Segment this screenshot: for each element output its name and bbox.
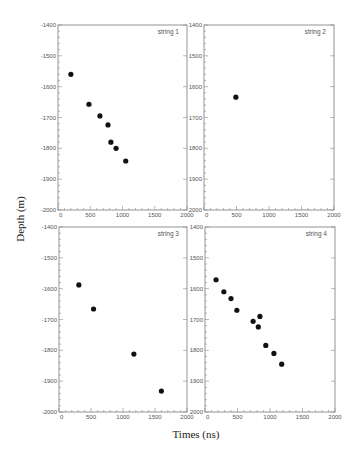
y-tick-label: -1700 <box>41 115 57 121</box>
y-tick-label: 1600 <box>189 84 203 90</box>
y-tick-label: -1800 <box>42 347 58 353</box>
y-tick-label: 2000 <box>189 207 203 213</box>
panel-3: -1400-1500-1600-1700-1800-1900-200005001… <box>42 224 195 420</box>
x-tick-label: 0 <box>206 414 210 420</box>
y-tick-label: 1400 <box>189 22 203 28</box>
y-tick-label: 1800 <box>189 145 203 151</box>
panel-title: string 2 <box>305 28 327 36</box>
data-point <box>97 113 102 118</box>
panel-2: 1400150016001700180019002000050010001500… <box>189 22 342 218</box>
data-point <box>228 296 233 301</box>
y-tick-label: -1400 <box>42 224 58 230</box>
y-tick-label: -1600 <box>41 84 57 90</box>
x-tick-label: 0 <box>60 414 64 420</box>
data-point <box>263 343 268 348</box>
data-point <box>123 158 128 163</box>
x-tick-label: 500 <box>85 212 96 218</box>
x-tick-label: 500 <box>86 414 97 420</box>
x-tick-label: 2000 <box>327 212 341 218</box>
data-point <box>257 314 262 319</box>
y-tick-label: -1800 <box>41 145 57 151</box>
data-point <box>131 351 136 356</box>
figure: -1400-1500-1600-1700-1800-1900-200005001… <box>0 0 361 458</box>
x-tick-label: 1500 <box>148 414 162 420</box>
data-point <box>271 351 276 356</box>
x-tick-label: 1500 <box>148 212 162 218</box>
x-tick-label: 500 <box>231 212 242 218</box>
data-point <box>159 388 164 393</box>
y-tick-label: -1500 <box>42 255 58 261</box>
data-point <box>91 306 96 311</box>
data-point <box>234 308 239 313</box>
y-tick-label: -1400 <box>41 22 57 28</box>
y-tick-label: -1900 <box>41 176 57 182</box>
data-point <box>105 122 110 127</box>
x-tick-label: 1500 <box>295 212 309 218</box>
data-point <box>113 146 118 151</box>
panels-group: -1400-1500-1600-1700-1800-1900-200005001… <box>41 22 343 420</box>
data-point <box>256 324 261 329</box>
x-tick-label: 2000 <box>328 414 342 420</box>
data-point <box>108 140 113 145</box>
data-point <box>213 277 218 282</box>
x-axis-title: Times (ns) <box>173 428 220 441</box>
y-tick-label: -1600 <box>42 286 58 292</box>
data-point <box>233 95 238 100</box>
x-tick-label: 1500 <box>296 414 310 420</box>
data-point <box>279 362 284 367</box>
data-point <box>221 289 226 294</box>
plot-frame <box>59 227 187 412</box>
plot-frame <box>58 25 187 210</box>
y-tick-label: 1500 <box>190 255 204 261</box>
y-tick-label: 1700 <box>189 115 203 121</box>
y-tick-label: 1500 <box>189 53 203 59</box>
x-tick-label: 0 <box>205 212 209 218</box>
panel-title: string 1 <box>158 28 180 36</box>
y-tick-label: 1700 <box>190 317 204 323</box>
x-tick-label: 0 <box>59 212 63 218</box>
data-point <box>68 72 73 77</box>
y-tick-label: 1900 <box>189 176 203 182</box>
y-tick-label: -1900 <box>42 378 58 384</box>
panel-4: 1400150016001700180019002000050010001500… <box>190 224 343 420</box>
x-tick-label: 1000 <box>116 414 130 420</box>
plot-frame <box>204 25 334 210</box>
panel-1: -1400-1500-1600-1700-1800-1900-200005001… <box>41 22 195 218</box>
panel-title: string 4 <box>306 230 328 238</box>
x-tick-label: 1000 <box>263 414 277 420</box>
y-tick-label: -1700 <box>42 317 58 323</box>
x-tick-label: 500 <box>232 414 243 420</box>
y-tick-label: -1500 <box>41 53 57 59</box>
data-point <box>251 319 256 324</box>
y-axis-title: Depth (m) <box>14 196 27 242</box>
x-tick-label: 1000 <box>116 212 130 218</box>
x-tick-label: 1000 <box>262 212 276 218</box>
y-tick-label: -2000 <box>41 207 57 213</box>
data-point <box>86 102 91 107</box>
plot-frame <box>205 227 335 412</box>
y-tick-label: 1900 <box>190 378 204 384</box>
y-tick-label: 2000 <box>190 409 204 415</box>
data-point <box>76 282 81 287</box>
y-tick-label: -2000 <box>42 409 58 415</box>
y-tick-label: 1400 <box>190 224 204 230</box>
y-tick-label: 1600 <box>190 286 204 292</box>
panel-title: string 3 <box>158 230 180 238</box>
y-tick-label: 1800 <box>190 347 204 353</box>
